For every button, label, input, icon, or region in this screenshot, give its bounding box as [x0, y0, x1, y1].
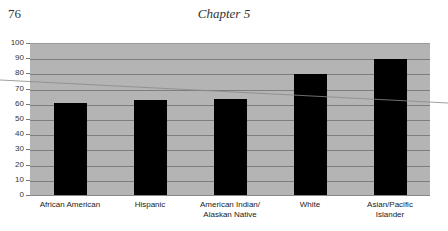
bar-chart: 0102030405060708090100 African AmericanH… [0, 0, 448, 231]
scan-artifact-line [0, 0, 448, 231]
